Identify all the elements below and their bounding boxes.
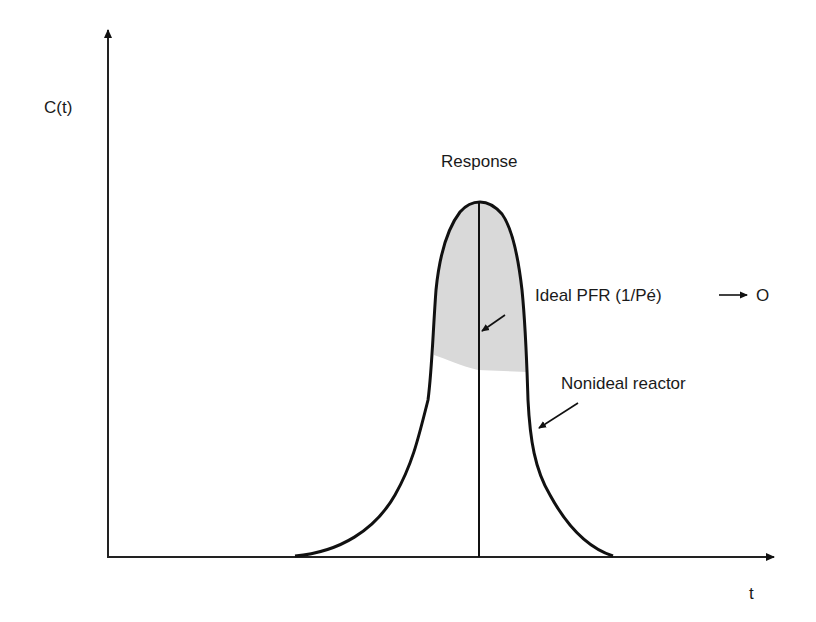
rtd-diagram: C(t) t Response Ideal PFR (1/Pé) O Nonid… [0, 0, 816, 622]
nonideal-label: Nonideal reactor [561, 374, 686, 393]
x-axis-label: t [749, 584, 754, 603]
y-axis-label: C(t) [44, 98, 72, 117]
shaded-region [434, 202, 527, 372]
response-label: Response [441, 152, 518, 171]
nonideal-arrow [539, 403, 578, 428]
ideal-pfr-label: Ideal PFR (1/Pé) [535, 286, 662, 305]
ideal-limit-label: O [756, 286, 769, 305]
